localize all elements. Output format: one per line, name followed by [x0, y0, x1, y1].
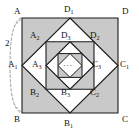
vertex-label-A: A	[14, 7, 21, 16]
vertex-label-C: C	[122, 115, 128, 124]
dimension-label-2: 2	[5, 38, 10, 48]
vertex-label-B2: B2	[30, 88, 39, 97]
vertex-label-B1: B1	[64, 119, 73, 128]
figure-canvas: A D B C D1 C1 B1 A1 A2 D2 B2 C2 D3 C3	[0, 0, 139, 134]
brace-tick-top	[14, 18, 22, 27]
vertex-label-B: B	[14, 115, 20, 124]
vertex-label-A3: A3	[32, 60, 42, 69]
vertex-label-C2: C2	[90, 88, 99, 97]
center-ellipsis: ···	[63, 61, 73, 70]
vertex-label-A2: A2	[30, 31, 40, 40]
vertex-label-D2: D2	[90, 31, 100, 40]
brace-tick-bottom	[14, 104, 22, 113]
vertex-label-D: D	[122, 7, 129, 16]
vertex-label-D1: D1	[64, 5, 74, 14]
vertex-label-C1: C1	[120, 60, 129, 69]
vertex-label-A1: A1	[8, 60, 18, 69]
vertex-label-C3: C3	[92, 60, 101, 69]
vertex-label-D3: D3	[61, 31, 71, 40]
vertex-label-B3: B3	[61, 88, 70, 97]
